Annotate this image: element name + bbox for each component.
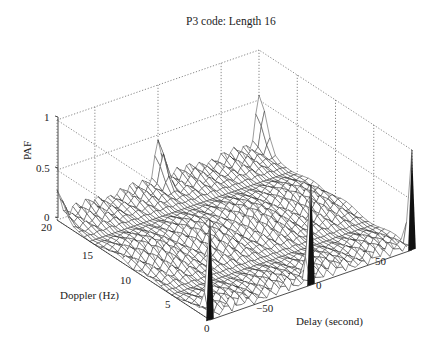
chart-figure: P3 code: Length 16 PAF 1 0.5 0 20 15 10 … <box>0 0 427 344</box>
z-axis-label: PAF <box>22 141 33 160</box>
y-tick-5: 5 <box>165 299 171 310</box>
y-tick-10: 10 <box>120 275 131 286</box>
z-tick-1: 1 <box>44 112 50 123</box>
y-tick-20: 20 <box>41 222 52 233</box>
y-tick-15: 15 <box>82 250 93 261</box>
chart-title: P3 code: Length 16 <box>186 16 276 28</box>
y-tick-0: 0 <box>204 323 210 334</box>
y-axis-label: Doppler (Hz) <box>60 290 119 301</box>
x-axis-label: Delay (second) <box>296 316 363 327</box>
x-tick-50: 50 <box>375 256 386 267</box>
x-tick-minus50: −50 <box>256 303 273 314</box>
z-tick-0.5: 0.5 <box>36 163 50 174</box>
x-tick-0: 0 <box>316 280 322 291</box>
